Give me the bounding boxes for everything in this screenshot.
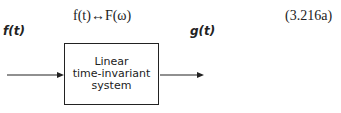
- output-signal-label: g(t): [190, 24, 215, 38]
- signal-arrows: [0, 0, 341, 113]
- output-arrowhead-icon: [197, 72, 204, 78]
- block-line-3: system: [92, 80, 132, 92]
- lti-system-block: Linear time-invariant system: [64, 43, 159, 105]
- input-signal-label: f(t): [3, 24, 25, 38]
- input-arrowhead-icon: [57, 72, 64, 78]
